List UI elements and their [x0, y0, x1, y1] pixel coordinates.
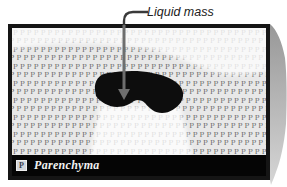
- wedge-shape: [270, 24, 287, 185]
- legend-symbol-chip: P: [16, 160, 27, 171]
- posterior-enhancement-zone: [89, 104, 193, 155]
- superficial-light-band: [12, 28, 266, 75]
- diagram-frame: PPPPPPPPPPPPPPPPPPPPPPPPPPPPPPPPPPPPPPPP…: [8, 24, 270, 180]
- annotation-label: Liquid mass: [147, 5, 214, 19]
- canvas-overlays: [12, 28, 266, 155]
- ultrasound-parenchyma-diagram: PPPPPPPPPPPPPPPPPPPPPPPPPPPPPPPPPPPPPPPP…: [0, 0, 287, 187]
- legend-symbol: P: [19, 162, 24, 170]
- parenchyma-field: PPPPPPPPPPPPPPPPPPPPPPPPPPPPPPPPPPPPPPPP…: [12, 28, 266, 155]
- legend-bar: P Parenchyma: [12, 155, 266, 176]
- legend-label: Parenchyma: [34, 158, 100, 173]
